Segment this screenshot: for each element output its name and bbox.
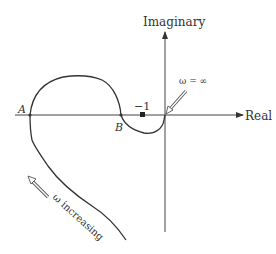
omega-infinity-arrow — [166, 91, 186, 114]
minus-one-label: −1 — [134, 100, 150, 113]
omega-increasing-arrow — [28, 176, 48, 197]
omega-increasing-label: ω increasing — [51, 191, 107, 243]
point-b-label: B — [114, 121, 123, 134]
omega-infinity-label: ω = ∞ — [179, 76, 207, 86]
point-a-label: A — [17, 103, 26, 116]
imaginary-axis-label: Imaginary — [143, 15, 205, 29]
nyquist-diagram: Real Imaginary A B −1 ω = ∞ ω increasing — [0, 0, 276, 254]
real-axis-label: Real — [245, 109, 272, 123]
point-a-marker — [28, 113, 31, 116]
point-b-marker — [119, 113, 122, 116]
